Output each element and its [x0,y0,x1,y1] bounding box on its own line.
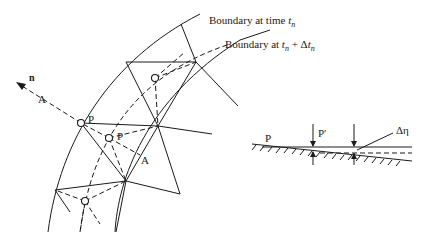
normal-label: n [29,72,35,83]
delta-eta-label: Δη [396,124,409,136]
node-lower [82,198,89,205]
node-upper [152,75,159,82]
point-a-inner-label: A [141,154,149,166]
point-a-outer-label: A [38,93,46,105]
detail-p-prime-label: P′ [318,127,327,139]
boundary-arc-tn-plus-dt [80,44,230,232]
detail-inset: P P′ Δη [252,124,412,166]
node-p-moved [106,135,113,142]
boundary-next-label: Boundary at tn + Δtn [225,38,315,53]
arrow-down-icon [310,141,316,147]
diagram-canvas: n A P P A Boundary at time tn Boundary a… [0,0,429,241]
detail-p-label: P [265,132,271,144]
point-p-label: P [88,113,94,125]
mesh-boundary-diagram: n A P P A Boundary at time tn Boundary a… [0,0,429,241]
normal-arrow-icon [16,82,26,90]
node-p [78,120,85,127]
point-p-moved-label: P [117,130,123,142]
arrow-down-icon [351,141,357,147]
wall-hatching [252,145,400,166]
boundary-tn-label: Boundary at time tn [209,14,295,29]
arrow-up-icon [351,153,357,159]
boundary-arc-tn [48,14,200,232]
